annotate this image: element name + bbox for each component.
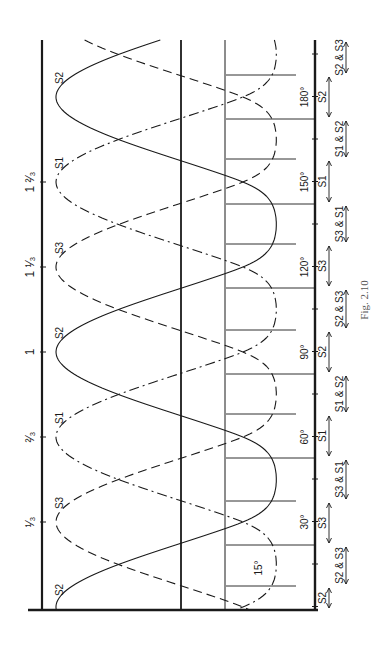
interval-s2: S2 <box>317 588 332 608</box>
interval-s1: S1 <box>317 161 332 202</box>
interval-s1-s2: S1 & S2 <box>334 120 349 157</box>
curve-label-s3: S3 <box>54 496 65 509</box>
curve-s2 <box>56 40 276 610</box>
curve-label-s2: S2 <box>54 71 65 84</box>
interval-label: S3 <box>317 516 328 529</box>
angle-label: 30° <box>299 514 310 529</box>
conduction-intervals: S2S2 & S3S3S3 & S1S1S1 & S2S2S2 & S3S3S3… <box>317 39 349 608</box>
angle-label: 90° <box>299 344 310 359</box>
interval-label: S2 & S3 <box>334 290 345 327</box>
interval-label: S2 & S3 <box>334 547 345 584</box>
angle-label: 60° <box>299 429 310 444</box>
labels: ¹⁄₃²⁄₃11 ¹⁄₃1 ²⁄₃30°60°90°120°150°180°15… <box>23 71 310 596</box>
commutation-lines <box>226 75 315 586</box>
angle-label: 150° <box>299 172 310 193</box>
figure-caption: Fig. 2.10 <box>358 280 370 320</box>
angle-label: 180° <box>299 87 310 108</box>
top-axis-label: ¹⁄₃ <box>23 516 37 527</box>
curve-label-s3: S3 <box>54 241 65 254</box>
waveform-diagram: ¹⁄₃²⁄₃11 ¹⁄₃1 ²⁄₃30°60°90°120°150°180°15… <box>0 0 387 645</box>
curve-label-s2: S2 <box>54 583 65 596</box>
interval-s3: S3 <box>317 246 332 286</box>
interval-label: S1 & S2 <box>334 120 345 157</box>
curve-s3 <box>56 40 276 610</box>
interval-s3: S3 <box>317 503 332 543</box>
interval-s1: S1 <box>317 416 332 456</box>
interval-s1-s2: S1 & S2 <box>334 375 349 412</box>
angle-label-inner: 15° <box>253 560 264 575</box>
phase-curves <box>56 40 276 610</box>
interval-s2-s3: S2 & S3 <box>334 290 349 328</box>
interval-label: S2 & S3 <box>334 39 345 76</box>
curve-label-s2: S2 <box>54 326 65 339</box>
interval-label: S2 <box>317 90 328 103</box>
interval-s2-s3: S2 & S3 <box>334 547 349 584</box>
interval-s2-s3: S2 & S3 <box>334 39 349 76</box>
curve-s1 <box>56 40 276 610</box>
interval-s3-s1: S3 & S1 <box>334 460 349 499</box>
interval-s2: S2 <box>317 77 332 117</box>
interval-s3-s1: S3 & S1 <box>334 205 349 242</box>
top-axis-label: ²⁄₃ <box>23 431 37 442</box>
interval-label: S3 <box>317 259 328 272</box>
interval-label: S3 & S1 <box>334 205 345 242</box>
top-axis-label: 1 ¹⁄₃ <box>23 256 37 277</box>
interval-label: S3 & S1 <box>334 461 345 498</box>
top-axis-label: 1 <box>23 348 37 355</box>
interval-label: S2 <box>317 345 328 358</box>
interval-label: S1 <box>317 175 328 188</box>
interval-label: S2 <box>317 591 328 604</box>
interval-label: S1 <box>317 429 328 442</box>
interval-label: S1 & S2 <box>334 375 345 412</box>
curve-label-s1: S1 <box>54 156 65 169</box>
angle-label: 120° <box>299 257 310 278</box>
curve-label-s1: S1 <box>54 411 65 424</box>
top-axis-label: 1 ²⁄₃ <box>23 171 37 192</box>
interval-s2: S2 <box>317 332 332 372</box>
